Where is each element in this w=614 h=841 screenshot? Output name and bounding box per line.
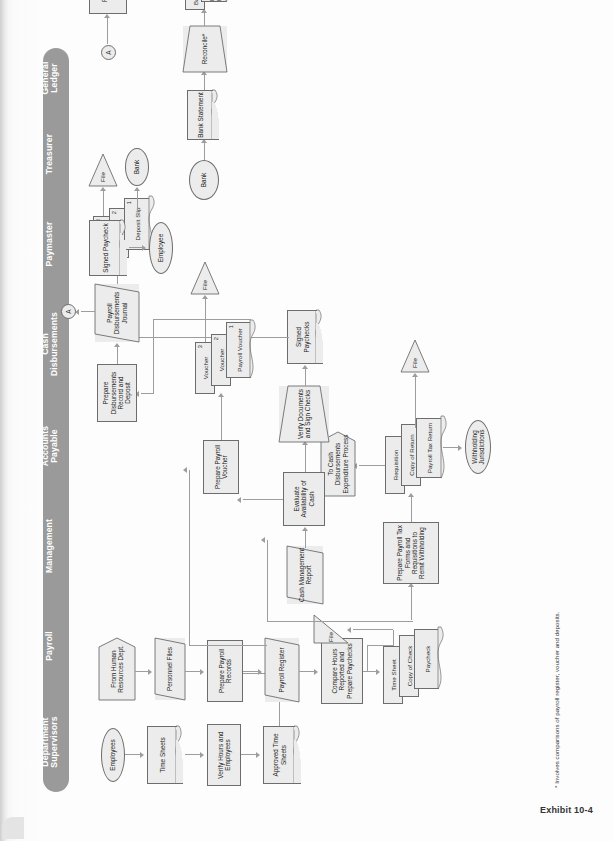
flow-line: [129, 247, 143, 248]
document-wave: [212, 90, 220, 140]
page-corner-fold: [2, 817, 24, 839]
node-bank-treasurer: Bank: [189, 160, 219, 200]
node-bank-reconciliation: Bank Reconciliation: [201, 0, 227, 2]
node-reconcile: Reconcile*: [183, 26, 227, 72]
flow-line: [107, 16, 108, 44]
page-binding-edge: [0, 0, 9, 841]
flow-line: [204, 74, 205, 90]
flow-arrow: [142, 245, 146, 251]
node-reconcile-reports: Reconcile Reports: [89, 0, 127, 14]
document-wave: [226, 0, 234, 2]
node-employee-paymaster: Employee: [149, 222, 173, 274]
node-signed-paycheck-paymaster: Signed Paycheck: [89, 220, 121, 276]
connector-a-general-ledger: A: [101, 45, 116, 60]
exhibit-caption: Exhibit 10-4: [540, 805, 593, 815]
node-bank-statement: Bank Statement: [187, 90, 213, 140]
flow-line: [204, 12, 205, 26]
rotated-exhibit-wrapper-2: Signed Paycheck Employee Bank Bank State…: [37, 40, 577, 800]
document-wave: [120, 220, 128, 276]
document-stack-bank-reconciliation: Bank Statement Bank Reconciliation: [185, 0, 237, 10]
flow-line: [204, 142, 205, 160]
flow-arrow: [104, 14, 110, 18]
